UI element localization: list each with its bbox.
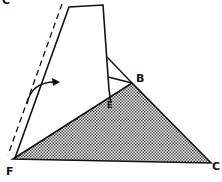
label-c: C [212,160,220,173]
label-f: F [6,165,14,178]
arrowhead-icon [52,78,60,86]
curved-arrow-icon [27,82,55,104]
label-top-left-partial: C [2,0,10,7]
diagram-canvas: C B E F C [0,0,222,182]
geometry-diagram: C B E F C [0,0,222,182]
label-b: B [136,72,144,85]
shaded-triangle-fbc [13,83,211,163]
edge-to-b-upper [107,57,132,83]
label-e: E [107,101,112,110]
